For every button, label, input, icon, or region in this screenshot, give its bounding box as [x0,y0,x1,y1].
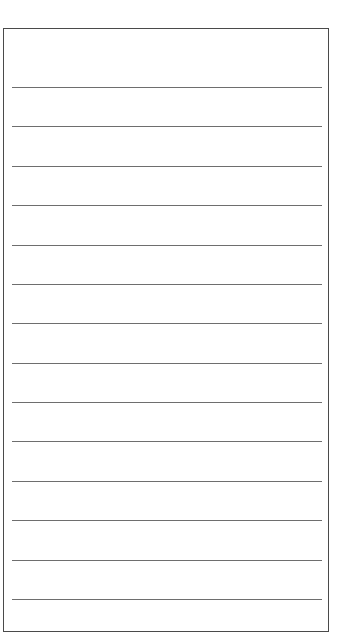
ruled-line [12,520,322,521]
ruled-line [12,363,322,364]
ruled-line [12,166,322,167]
ruled-line [12,481,322,482]
ruled-line [12,205,322,206]
ruled-line [12,126,322,127]
ruled-line [12,441,322,442]
lined-page-frame [3,28,329,632]
ruled-line [12,284,322,285]
ruled-line [12,87,322,88]
ruled-line [12,402,322,403]
ruled-line [12,323,322,324]
ruled-line [12,560,322,561]
ruled-line [12,599,322,600]
ruled-line [12,245,322,246]
